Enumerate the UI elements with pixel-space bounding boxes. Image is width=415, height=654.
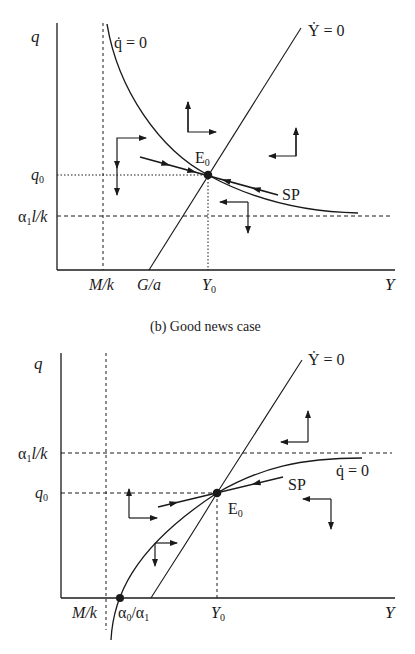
equilibrium-point — [213, 489, 222, 498]
panel-b: q Y Ẏ = 0 q̇ = 0 SP E0 α1l/k q0 M/k α0/α… — [18, 351, 396, 640]
x-axis-label: Y — [385, 603, 396, 622]
y-dot-zero-label: Ẏ = 0 — [308, 351, 345, 368]
panel-a: q Y q̇ = 0 Ẏ = 0 SP E0 q0 α1l/k M/k G/a … — [18, 22, 396, 295]
q-dot-zero-curve — [107, 24, 358, 213]
y-axis-label: q — [31, 27, 40, 46]
y-dot-zero-label: Ẏ = 0 — [308, 22, 345, 39]
saddle-path-label: SP — [288, 476, 306, 493]
q-dot-zero-label: q̇ = 0 — [336, 462, 369, 480]
y0-tick: Y0 — [202, 276, 216, 295]
ga-tick: G/a — [137, 276, 161, 293]
x-axis-label: Y — [385, 275, 396, 294]
alpha1-lk-tick: α1l/k — [18, 445, 48, 464]
y-dot-zero-line — [151, 360, 302, 598]
alpha1-lk-tick: α1l/k — [18, 208, 48, 227]
alpha0-alpha1-tick: α0/α1 — [118, 604, 149, 623]
saddle-path-label: SP — [282, 186, 300, 203]
q0-tick: q0 — [35, 484, 48, 503]
equilibrium-label: E0 — [195, 149, 210, 168]
q0-tick: q0 — [31, 166, 44, 185]
equilibrium-label: E0 — [228, 500, 243, 519]
mk-tick: M/k — [71, 604, 98, 621]
phase-diagrams: q Y q̇ = 0 Ẏ = 0 SP E0 q0 α1l/k M/k G/a … — [0, 0, 415, 654]
y-axis-label: q — [34, 354, 43, 373]
intercept-point — [116, 594, 124, 602]
mk-tick: M/k — [88, 276, 115, 293]
y0-tick: Y0 — [211, 604, 225, 623]
q-dot-zero-label: q̇ = 0 — [114, 34, 147, 52]
panel-b-caption: (b) Good news case — [150, 319, 261, 335]
equilibrium-point — [204, 171, 213, 180]
